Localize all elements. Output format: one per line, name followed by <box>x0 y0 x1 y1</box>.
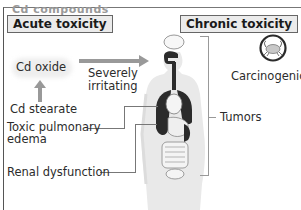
tumors-leader <box>208 117 216 118</box>
renal-dysfunction-label: Renal dysfunction <box>7 166 110 179</box>
human-body-figure <box>138 34 208 210</box>
tumors-bracket <box>208 36 209 176</box>
pulmonary-leader-v <box>124 106 125 129</box>
pulmonary-leader-h2 <box>124 106 158 107</box>
renal-leader-v <box>135 124 136 173</box>
up-arrow-icon <box>33 80 47 102</box>
chronic-toxicity-header: Chronic toxicity <box>180 15 298 33</box>
tumors-label: Tumors <box>220 111 262 124</box>
cd-stearate-label: Cd stearate <box>10 103 77 116</box>
acute-toxicity-header: Acute toxicity <box>7 15 113 33</box>
renal-leader-h2 <box>135 124 157 125</box>
edema-label: edema <box>7 133 47 146</box>
irritating-label: irritating <box>88 80 138 93</box>
carcinogenic-label: Carcinogenic <box>231 70 301 83</box>
tumors-bracket-top <box>200 36 208 37</box>
crab-icon <box>259 34 287 62</box>
tumors-bracket-bottom <box>200 175 208 176</box>
cd-oxide-label: Cd oxide <box>16 61 66 74</box>
